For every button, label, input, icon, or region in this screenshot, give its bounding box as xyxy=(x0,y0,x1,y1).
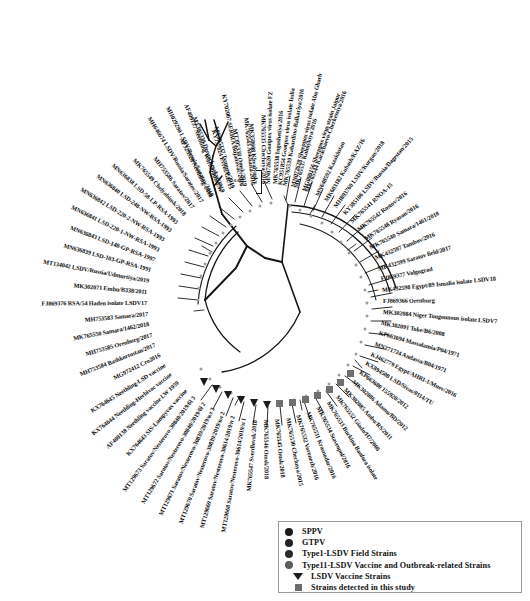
triangle-icon xyxy=(285,573,311,580)
legend-label: GTPV xyxy=(302,538,325,547)
legend-label: Type1-LSDV Field Strains xyxy=(302,549,397,558)
legend-item-type1-field: Type1-LSDV Field Strains xyxy=(285,548,516,559)
legend-item-study-strains: Strains detected in this study xyxy=(285,582,516,593)
figure-canvas: 0.005 MG000156 Sheeppox virus strain Jai… xyxy=(0,0,530,601)
taxon-label: FJ869366 Orenburg xyxy=(383,297,435,304)
taxon-label: MK765535 Chechnya/2016 xyxy=(260,115,267,184)
taxon-label: MK765546 Omsk/2018 xyxy=(263,420,270,479)
circle-icon xyxy=(285,528,302,536)
legend-item-type11-vaccine: Type11-LSDV Vaccine and Outbreak-related… xyxy=(285,560,516,571)
legend-item-gtpv: GTPV xyxy=(285,537,516,548)
circle-icon xyxy=(285,539,302,547)
legend-label: Strains detected in this study xyxy=(311,583,415,592)
legend-item-sppv: SPPV xyxy=(285,526,516,537)
legend-item-vaccine-strains: LSDV Vaccine Strains xyxy=(285,571,516,582)
square-icon xyxy=(285,584,311,591)
legend-label: Type11-LSDV Vaccine and Outbreak-related… xyxy=(302,561,490,570)
taxon-label: FJ869376 RSA/54 Haden isolate LSDV17 xyxy=(42,300,147,307)
legend-label: SPPV xyxy=(302,527,323,536)
legend: SPPV GTPV Type1-LSDV Field Strains Type1… xyxy=(278,521,522,593)
legend-label: LSDV Vaccine Strains xyxy=(311,572,391,581)
circle-icon xyxy=(285,561,302,569)
circle-icon xyxy=(285,550,302,558)
